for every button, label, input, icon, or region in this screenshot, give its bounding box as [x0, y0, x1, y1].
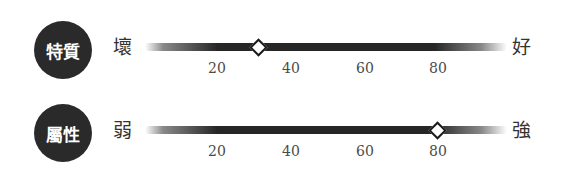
- slider-marker-diamond-icon[interactable]: [428, 121, 446, 139]
- category-badge: 特質: [34, 21, 92, 79]
- tick-label: 20: [202, 143, 232, 159]
- category-label: 屬性: [46, 121, 80, 146]
- left-label: 壞: [113, 37, 132, 57]
- right-label: 好: [512, 37, 531, 57]
- tick-label: 40: [276, 60, 306, 76]
- category-badge: 屬性: [34, 104, 92, 162]
- tick-label: 40: [276, 143, 306, 159]
- slider-marker-diamond-icon[interactable]: [249, 38, 267, 56]
- tick-label: 80: [423, 143, 453, 159]
- scale-row-quality: 特質 壞 好 20 40 60 80: [0, 0, 564, 82]
- tick-label: 60: [350, 143, 380, 159]
- category-label: 特質: [46, 38, 80, 63]
- tick-label: 60: [350, 60, 380, 76]
- left-label: 弱: [113, 120, 132, 140]
- tick-label: 80: [423, 60, 453, 76]
- right-label: 強: [512, 120, 531, 140]
- scale-row-attribute: 屬性 弱 強 20 40 60 80: [0, 83, 564, 165]
- slider-track[interactable]: [145, 43, 507, 51]
- tick-label: 20: [202, 60, 232, 76]
- slider-track[interactable]: [145, 126, 507, 134]
